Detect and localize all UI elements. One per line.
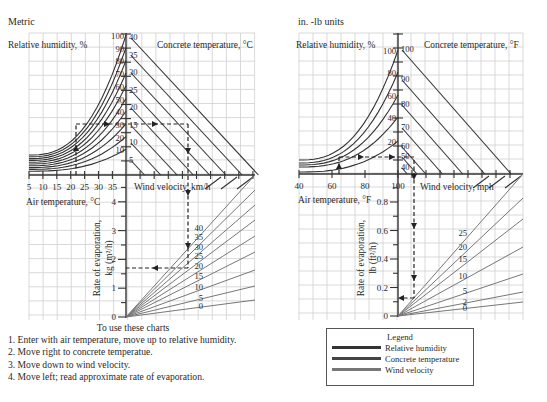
svg-text:60: 60 bbox=[401, 141, 410, 151]
metric-chart: Metric bbox=[8, 16, 258, 322]
imperial-chart: in. -lb units Relative humidity, % bbox=[295, 16, 524, 321]
svg-text:100: 100 bbox=[391, 181, 405, 191]
svg-text:40: 40 bbox=[295, 181, 305, 191]
imperial-title: in. -lb units bbox=[298, 16, 344, 27]
svg-text:0: 0 bbox=[384, 311, 389, 321]
svg-text:30: 30 bbox=[94, 182, 104, 192]
svg-text:60: 60 bbox=[328, 181, 338, 191]
svg-text:100: 100 bbox=[111, 31, 124, 41]
instruction-step: 2. Move right to concrete temperatue. bbox=[8, 346, 338, 358]
svg-text:3: 3 bbox=[112, 226, 117, 236]
svg-text:60: 60 bbox=[115, 82, 124, 92]
svg-text:0: 0 bbox=[199, 301, 203, 311]
svg-text:70: 70 bbox=[401, 122, 410, 132]
svg-text:40: 40 bbox=[129, 32, 138, 42]
svg-text:15: 15 bbox=[194, 271, 203, 281]
legend-item-relative-humidity: Relative humidity bbox=[327, 342, 473, 353]
svg-text:20: 20 bbox=[66, 182, 76, 192]
svg-text:15: 15 bbox=[458, 254, 467, 264]
svg-text:10: 10 bbox=[38, 182, 48, 192]
metric-air-tick-labels: 5101520253035 bbox=[27, 182, 118, 192]
svg-text:25: 25 bbox=[80, 182, 90, 192]
svg-text:0: 0 bbox=[112, 312, 117, 322]
svg-text:5: 5 bbox=[27, 182, 32, 192]
metric-rh-label: Relative humidity, % bbox=[8, 40, 88, 50]
metric-wind-lines bbox=[126, 175, 255, 317]
svg-text:5: 5 bbox=[463, 286, 467, 296]
metric-air-label: Air temperature, °C bbox=[26, 197, 100, 207]
legend-item-concrete-temperature: Concrete temperature bbox=[327, 353, 473, 364]
imperial-concrete-temp-lines bbox=[402, 50, 521, 188]
metric-grid bbox=[29, 33, 255, 320]
svg-text:10: 10 bbox=[458, 271, 467, 281]
svg-text:90: 90 bbox=[401, 74, 410, 84]
svg-text:0.2: 0.2 bbox=[377, 283, 388, 293]
svg-text:20: 20 bbox=[194, 261, 203, 271]
svg-text:Rate of evaporation,: Rate of evaporation, bbox=[92, 220, 102, 296]
svg-text:10: 10 bbox=[115, 145, 124, 155]
svg-text:5: 5 bbox=[129, 155, 133, 165]
svg-text:lb (ft²/h): lb (ft²/h) bbox=[368, 242, 379, 274]
imperial-ct-label: Concrete temperature, °F bbox=[424, 40, 519, 50]
svg-text:Rate of evaporation,: Rate of evaporation, bbox=[356, 220, 366, 296]
instruction-step: 4. Move left; read approximate rate of e… bbox=[8, 371, 338, 383]
legend-title: Legend bbox=[327, 332, 473, 342]
svg-text:80: 80 bbox=[387, 68, 396, 78]
svg-text:80: 80 bbox=[361, 181, 371, 191]
svg-text:10: 10 bbox=[194, 282, 203, 292]
svg-text:0.8: 0.8 bbox=[377, 197, 389, 207]
instructions-heading: To use these charts bbox=[8, 322, 258, 334]
metric-wind-label: Wind velocity, km/h bbox=[134, 182, 211, 192]
metric-ct-label: Concrete temperature, °C bbox=[157, 40, 253, 50]
svg-text:40: 40 bbox=[387, 113, 396, 123]
svg-text:20: 20 bbox=[387, 137, 396, 147]
svg-text:15: 15 bbox=[129, 120, 138, 130]
imperial-air-tick-labels: 406080100 bbox=[295, 181, 406, 191]
svg-text:30: 30 bbox=[129, 67, 138, 77]
svg-text:25: 25 bbox=[129, 85, 138, 95]
svg-text:90: 90 bbox=[115, 44, 124, 54]
svg-text:20: 20 bbox=[129, 102, 138, 112]
svg-text:35: 35 bbox=[129, 50, 138, 60]
svg-text:40: 40 bbox=[401, 162, 410, 172]
svg-text:25: 25 bbox=[458, 228, 467, 238]
imperial-rh-label: Relative humidity, % bbox=[296, 40, 376, 50]
svg-text:35: 35 bbox=[108, 182, 118, 192]
legend-swatch bbox=[332, 357, 381, 360]
svg-text:100: 100 bbox=[383, 46, 396, 56]
imperial-air-label: Air temperature, °F bbox=[298, 195, 371, 205]
metric-title: Metric bbox=[8, 16, 35, 27]
svg-text:70: 70 bbox=[115, 69, 124, 79]
svg-text:4: 4 bbox=[112, 197, 117, 207]
svg-text:80: 80 bbox=[115, 56, 124, 66]
svg-text:30: 30 bbox=[115, 120, 124, 130]
svg-text:15: 15 bbox=[52, 182, 62, 192]
svg-text:20: 20 bbox=[458, 242, 467, 252]
svg-text:1: 1 bbox=[112, 283, 117, 293]
svg-text:60: 60 bbox=[387, 91, 396, 101]
svg-text:40: 40 bbox=[115, 107, 124, 117]
svg-text:kg (m²/h): kg (m²/h) bbox=[104, 240, 115, 275]
instruction-step: 3. Move down to wind velocity. bbox=[8, 359, 338, 371]
svg-text:50: 50 bbox=[401, 151, 410, 161]
svg-text:20: 20 bbox=[115, 133, 124, 143]
svg-text:0: 0 bbox=[463, 303, 467, 313]
svg-text:0.4: 0.4 bbox=[377, 254, 389, 264]
instruction-step: 1. Enter with air temperature, move up t… bbox=[8, 334, 338, 346]
svg-text:80: 80 bbox=[401, 99, 410, 109]
svg-text:50: 50 bbox=[115, 95, 124, 105]
legend-swatch bbox=[332, 346, 381, 349]
imperial-grid bbox=[299, 33, 523, 320]
instructions-block: To use these charts 1. Enter with air te… bbox=[8, 322, 338, 383]
svg-text:25: 25 bbox=[194, 251, 203, 261]
svg-text:100: 100 bbox=[401, 44, 414, 54]
metric-concrete-temp-lines bbox=[131, 38, 258, 189]
svg-text:10: 10 bbox=[129, 137, 138, 147]
legend: Legend Relative humidity Concrete temper… bbox=[326, 328, 474, 386]
legend-item-wind-velocity: Wind velocity bbox=[327, 364, 473, 375]
svg-text:0.6: 0.6 bbox=[377, 226, 389, 236]
legend-swatch bbox=[332, 368, 381, 371]
imperial-wind-label: Wind velocity, mph bbox=[420, 182, 494, 192]
